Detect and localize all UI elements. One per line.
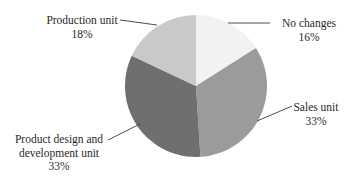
label-production: Production unit 18%	[46, 14, 118, 40]
leader-line-product-design	[108, 124, 140, 140]
label-product-design-line1: Product design and	[15, 133, 103, 146]
label-production-pct: 18%	[71, 28, 93, 40]
label-sales-pct: 33%	[305, 115, 327, 127]
label-sales-name: Sales unit	[293, 101, 339, 113]
label-no-changes-name: No changes	[282, 17, 336, 30]
leader-line-production	[120, 20, 157, 25]
label-sales: Sales unit 33%	[293, 101, 339, 127]
label-product-design-pct: 33%	[48, 160, 70, 172]
label-product-design: Product design and development unit 33%	[15, 133, 103, 172]
pie-slices	[125, 15, 267, 157]
label-production-name: Production unit	[46, 14, 118, 26]
label-no-changes-pct: 16%	[298, 31, 320, 43]
pie-chart: No changes 16% Production unit 18% Produ…	[0, 0, 356, 177]
label-no-changes: No changes 16%	[282, 17, 336, 43]
label-product-design-line2: development unit	[19, 147, 100, 160]
